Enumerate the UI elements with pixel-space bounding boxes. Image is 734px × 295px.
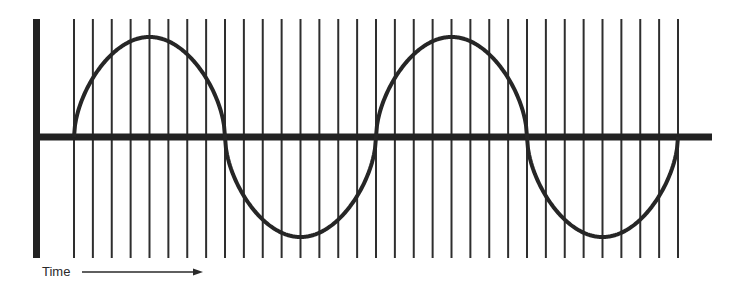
arrow-right-icon <box>193 269 203 276</box>
sampled-waveform-diagram <box>0 0 734 295</box>
time-axis-label: Time <box>42 264 70 279</box>
time-arrow <box>82 269 203 276</box>
